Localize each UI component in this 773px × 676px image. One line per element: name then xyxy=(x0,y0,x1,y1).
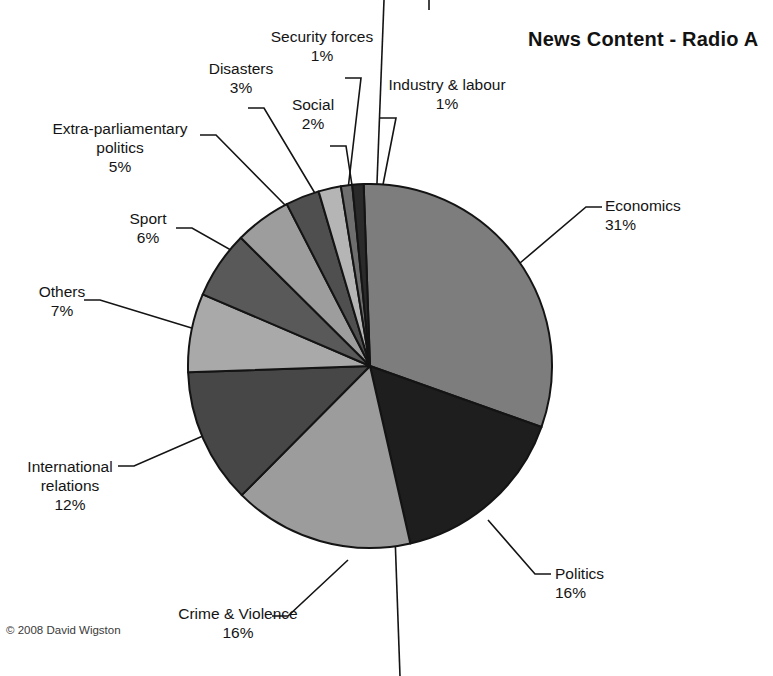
slice-label-disasters-name: Disasters xyxy=(209,60,274,77)
slice-label-crime-violence-name: Crime & Violence xyxy=(178,605,297,622)
slice-label-extra-parliamentary-value: 5% xyxy=(40,158,200,177)
slice-label-social: Social 2% xyxy=(281,96,345,134)
slice-label-economics-name: Economics xyxy=(605,197,681,214)
slice-label-extra-parliamentary-name-line1: Extra-parliamentary xyxy=(52,120,187,137)
slice-label-crime-violence: Crime & Violence 16% xyxy=(140,605,336,643)
slice-label-industry-labour-name: Industry & labour xyxy=(388,76,505,93)
slice-label-international-relations-value: 12% xyxy=(8,496,132,515)
slice-label-industry-labour: Industry & labour 1% xyxy=(376,76,518,114)
slice-label-international-relations-name-line1: International xyxy=(27,458,112,475)
leader-line-extra-parliamentary-politics xyxy=(200,135,288,208)
slice-label-sport-value: 6% xyxy=(112,229,184,248)
slice-label-extra-parliamentary: Extra-parliamentary politics 5% xyxy=(40,120,200,177)
slice-label-disasters-value: 3% xyxy=(198,79,284,98)
pie-chart-figure: News Content - Radio A Security forces 1… xyxy=(0,0,773,676)
leader-line-economics xyxy=(520,207,602,263)
slice-label-crime-violence-value: 16% xyxy=(140,624,336,643)
slice-label-social-value: 2% xyxy=(281,115,345,134)
slice-label-economics: Economics 31% xyxy=(605,197,725,235)
slice-label-politics: Politics 16% xyxy=(555,565,655,603)
pie-slices-group xyxy=(188,184,552,548)
slice-label-social-name: Social xyxy=(292,96,334,113)
slice-label-economics-value: 31% xyxy=(605,216,725,235)
slice-label-security-forces-name: Security forces xyxy=(271,28,374,45)
slice-label-international-relations-name-line2: relations xyxy=(8,477,132,496)
slice-label-extra-parliamentary-name-line2: politics xyxy=(40,139,200,158)
slice-label-others-name: Others xyxy=(39,283,86,300)
leader-line-politics xyxy=(488,520,551,574)
slice-label-politics-value: 16% xyxy=(555,584,655,603)
slice-label-sport-name: Sport xyxy=(129,210,166,227)
slice-label-international-relations: International relations 12% xyxy=(8,458,132,515)
leader-line-others xyxy=(84,300,208,333)
slice-label-industry-labour-value: 1% xyxy=(376,95,518,114)
slice-label-politics-name: Politics xyxy=(555,565,604,582)
slice-label-others: Others 7% xyxy=(24,283,100,321)
slice-label-disasters: Disasters 3% xyxy=(198,60,284,98)
copyright-notice: © 2008 David Wigston xyxy=(6,624,121,636)
slice-label-others-value: 7% xyxy=(24,302,100,321)
leader-line-international-relations xyxy=(118,432,212,466)
chart-title: News Content - Radio A xyxy=(528,28,758,51)
slice-label-sport: Sport 6% xyxy=(112,210,184,248)
